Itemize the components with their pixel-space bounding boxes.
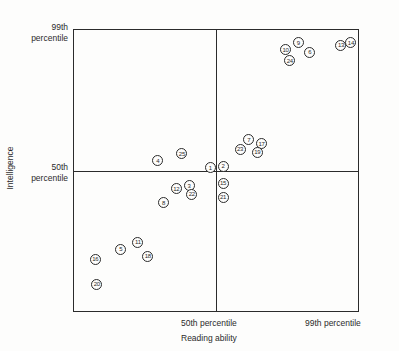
x-axis-tick-99th: 99th percentile: [305, 318, 361, 328]
data-point: 16: [90, 254, 101, 265]
data-point: 20: [91, 279, 102, 290]
y-axis-tick-99th-line1: 99th: [31, 22, 68, 33]
reference-line-horizontal-50th: [74, 171, 358, 172]
y-axis-tick-50th-line2: percentile: [31, 173, 68, 184]
data-point: 7: [243, 134, 254, 145]
data-point: 12: [171, 183, 182, 194]
y-axis-tick-99th: 99th percentile: [31, 22, 68, 44]
data-point: 2: [218, 161, 229, 172]
data-point: 19: [252, 147, 263, 158]
data-point: 14: [345, 37, 356, 48]
data-point: 5: [115, 244, 126, 255]
plot-area: 1234567891011121314151617181920212223242…: [73, 29, 359, 312]
data-point: 8: [158, 197, 169, 208]
data-point: 24: [284, 55, 295, 66]
x-axis-tick-50th: 50th percentile: [181, 318, 237, 328]
data-point: 25: [176, 148, 187, 159]
y-axis-tick-50th-line1: 50th: [31, 162, 68, 173]
data-point: 23: [235, 144, 246, 155]
y-axis-tick-99th-line2: percentile: [31, 33, 68, 44]
data-point: 9: [293, 37, 304, 48]
data-point: 18: [142, 251, 153, 262]
data-point: 4: [152, 155, 163, 166]
y-axis-title: Intelligence: [5, 138, 15, 198]
x-axis-title: Reading ability: [181, 333, 237, 343]
data-point: 1: [205, 162, 216, 173]
data-point: 21: [218, 192, 229, 203]
data-point: 11: [132, 237, 143, 248]
scatter-plot-figure: 99th percentile 50th percentile Intellig…: [0, 0, 399, 351]
data-point: 10: [280, 44, 291, 55]
data-point: 6: [304, 47, 315, 58]
data-point: 22: [186, 189, 197, 200]
data-point: 15: [218, 178, 229, 189]
y-axis-tick-50th: 50th percentile: [31, 162, 68, 184]
